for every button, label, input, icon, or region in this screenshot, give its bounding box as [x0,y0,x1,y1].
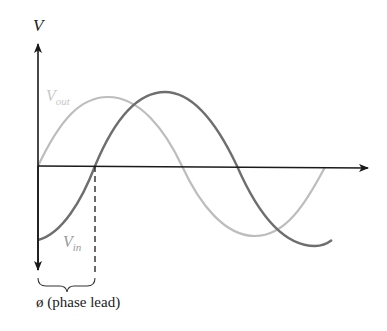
phase-diagram: V Vout Vin ø (phase lead) [0,0,387,331]
vout-label: Vout [46,87,71,107]
vin-label: Vin [63,233,82,253]
phase-label: ø (phase lead) [36,294,120,311]
y-axis-label: V [33,16,46,35]
phase-brace [38,278,95,292]
x-axis [38,166,368,168]
